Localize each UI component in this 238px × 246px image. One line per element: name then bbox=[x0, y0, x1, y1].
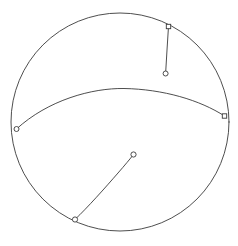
marker-endpoint-interior bbox=[131, 152, 136, 157]
marker-rim-left bbox=[14, 127, 19, 132]
sphere-diagram bbox=[0, 0, 238, 246]
marker-rim-bottom-left bbox=[72, 217, 77, 222]
marker-rim-top-right bbox=[166, 24, 170, 28]
marker-rim-right bbox=[222, 114, 226, 118]
marker-endpoint-upper-right bbox=[163, 71, 168, 76]
figure-root bbox=[0, 0, 238, 246]
canvas-background bbox=[0, 0, 238, 246]
